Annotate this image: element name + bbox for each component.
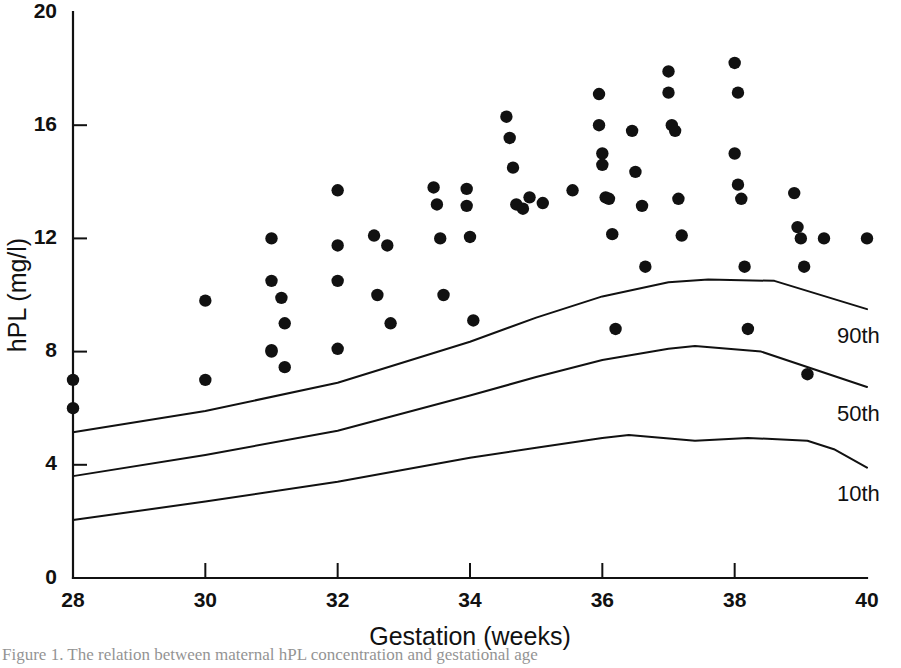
data-point [728, 147, 740, 159]
data-point [279, 317, 291, 329]
percentile-curve-50th [73, 346, 867, 476]
scatter-plot-canvas: 048121620 28303234363840 90th50th10th Ge… [0, 0, 901, 668]
chart-figure: 048121620 28303234363840 90th50th10th Ge… [0, 0, 901, 668]
data-point [331, 184, 343, 196]
data-point [629, 166, 641, 178]
data-point [861, 232, 873, 244]
data-point [593, 119, 605, 131]
y-axis-ticks: 048121620 [34, 0, 87, 588]
data-point [384, 317, 396, 329]
x-axis-title: Gestation (weeks) [369, 622, 570, 650]
data-point [517, 202, 529, 214]
data-point [504, 132, 516, 144]
x-tick-label: 40 [855, 588, 878, 611]
data-point [431, 198, 443, 210]
data-point [795, 232, 807, 244]
x-tick-label: 38 [723, 588, 747, 611]
x-axis-ticks: 28303234363840 [61, 563, 878, 611]
data-point [199, 294, 211, 306]
curve-label-50th: 50th [837, 401, 880, 426]
data-point [596, 147, 608, 159]
y-axis-title: hPL (mg/l) [3, 238, 31, 352]
x-tick-label: 34 [458, 588, 482, 611]
data-point [606, 228, 618, 240]
data-point [788, 187, 800, 199]
percentile-curve-90th [73, 279, 867, 432]
data-point [662, 65, 674, 77]
data-point [464, 231, 476, 243]
x-tick-label: 30 [194, 588, 217, 611]
data-point [537, 197, 549, 209]
data-point [672, 193, 684, 205]
data-point [265, 275, 277, 287]
data-point [738, 261, 750, 273]
data-point [437, 289, 449, 301]
data-point [676, 229, 688, 241]
data-point [669, 125, 681, 137]
data-point [275, 292, 287, 304]
x-tick-label: 36 [591, 588, 614, 611]
curve-label-10th: 10th [837, 481, 880, 506]
data-point [500, 111, 512, 123]
percentile-curve-10th [73, 435, 867, 520]
data-point [791, 221, 803, 233]
data-point [728, 57, 740, 69]
data-point [460, 183, 472, 195]
axes-group [73, 12, 867, 578]
x-tick-label: 32 [326, 588, 349, 611]
data-point [596, 159, 608, 171]
data-point [735, 193, 747, 205]
data-point [603, 193, 615, 205]
percentile-curve-labels: 90th50th10th [837, 323, 880, 506]
figure-caption-text: Figure 1. The relation between maternal … [2, 648, 538, 665]
data-point [639, 261, 651, 273]
data-point [609, 323, 621, 335]
data-point [626, 125, 638, 137]
data-point [523, 191, 535, 203]
curve-label-90th: 90th [837, 323, 880, 348]
data-point [798, 261, 810, 273]
x-tick-label: 28 [61, 588, 85, 611]
data-point [434, 232, 446, 244]
data-points [67, 57, 873, 415]
data-point [593, 88, 605, 100]
data-point [381, 239, 393, 251]
data-point [818, 232, 830, 244]
y-tick-label: 12 [34, 225, 57, 248]
figure-caption: Figure 1. The relation between maternal … [0, 648, 901, 668]
data-point [331, 343, 343, 355]
data-point [460, 200, 472, 212]
y-tick-label: 8 [45, 338, 57, 361]
data-point [427, 181, 439, 193]
data-point [67, 402, 79, 414]
y-tick-label: 20 [34, 0, 57, 22]
y-tick-label: 0 [45, 565, 57, 588]
data-point [742, 323, 754, 335]
data-point [566, 184, 578, 196]
data-point [732, 178, 744, 190]
data-point [368, 229, 380, 241]
data-point [67, 374, 79, 386]
data-point [636, 200, 648, 212]
data-point [801, 368, 813, 380]
data-point [199, 374, 211, 386]
y-tick-label: 4 [45, 451, 57, 474]
data-point [371, 289, 383, 301]
data-point [507, 161, 519, 173]
data-point [265, 232, 277, 244]
data-point [331, 239, 343, 251]
data-point [279, 361, 291, 373]
data-point [265, 345, 277, 357]
data-point [732, 86, 744, 98]
y-tick-label: 16 [34, 112, 57, 135]
data-point [331, 275, 343, 287]
data-point [662, 86, 674, 98]
data-point [467, 314, 479, 326]
